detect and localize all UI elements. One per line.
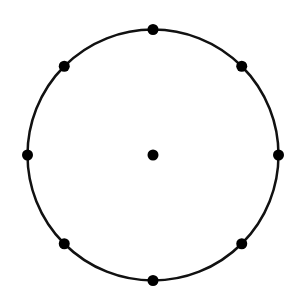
points-group xyxy=(22,24,284,286)
circumference-point-270deg xyxy=(148,275,159,286)
circumference-point-0deg xyxy=(273,150,284,161)
circle-diagram xyxy=(0,0,301,306)
center-point xyxy=(148,150,159,161)
circumference-point-90deg xyxy=(148,24,159,35)
circumference-point-135deg xyxy=(59,61,70,72)
circumference-point-180deg xyxy=(22,150,33,161)
circumference-point-225deg xyxy=(59,238,70,249)
circumference-point-315deg xyxy=(236,238,247,249)
circumference-point-45deg xyxy=(236,61,247,72)
